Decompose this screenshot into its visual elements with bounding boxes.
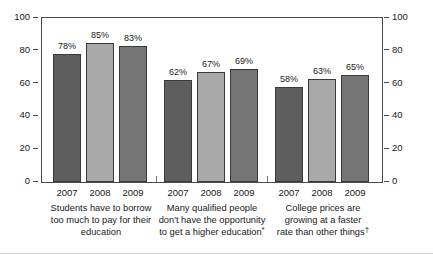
x-axis-year-labels: 200720082009200720082009200720082009 <box>42 186 382 200</box>
bar: 78% <box>53 54 81 182</box>
x-axis-year-label: 2009 <box>335 186 375 199</box>
bar-group: 58%63%65% <box>275 18 371 182</box>
y-tick-right-mark <box>384 148 389 149</box>
group-caption: Many qualified peopledon't have the oppo… <box>151 202 273 239</box>
bar-value-label: 67% <box>202 58 220 70</box>
bar: 65% <box>341 75 369 182</box>
footnote-marker: * <box>262 225 265 234</box>
bar: 85% <box>86 43 114 182</box>
y-tick-right-mark <box>384 49 389 50</box>
group-separator-tick <box>156 176 157 182</box>
y-tick-left-mark <box>33 17 38 18</box>
bar-value-label: 69% <box>235 55 253 67</box>
bar-value-label: 62% <box>169 66 187 78</box>
y-tick-left-mark <box>33 115 38 116</box>
group-caption-line: don't have the opportunity <box>151 214 273 226</box>
y-tick-left-label: 100 <box>14 10 30 24</box>
y-tick-right-label: 80 <box>392 43 403 57</box>
y-tick-right-label: 100 <box>392 10 408 24</box>
y-tick-right-label: 40 <box>392 108 403 122</box>
y-tick-left-mark <box>33 181 38 182</box>
bar-value-label: 78% <box>58 40 76 52</box>
y-tick-right-mark <box>384 181 389 182</box>
y-tick-right-mark <box>384 115 389 116</box>
group-separator-tick <box>267 176 268 182</box>
y-tick-left-mark <box>33 82 38 83</box>
group-caption-line: education <box>42 226 160 238</box>
y-tick-left-label: 20 <box>19 141 30 155</box>
x-axis-year-label: 2009 <box>113 186 153 199</box>
y-tick-left-label: 0 <box>25 174 30 188</box>
group-caption-line: growing at a faster <box>267 214 379 226</box>
group-caption-line: too much to pay for their <box>42 214 160 226</box>
group-caption-line: rate than other things† <box>267 226 379 238</box>
bar: 58% <box>275 87 303 182</box>
bar: 83% <box>119 46 147 182</box>
x-axis-year-label: 2009 <box>224 186 264 199</box>
x-axis-group-captions: Students have to borrowtoo much to pay f… <box>42 202 382 250</box>
bar-value-label: 83% <box>124 32 142 44</box>
bar: 62% <box>164 80 192 182</box>
bar-chart: 020406080100 020406080100 78%85%83%62%67… <box>0 0 433 254</box>
y-tick-right-label: 0 <box>392 174 397 188</box>
y-axis-left: 020406080100 <box>0 17 38 183</box>
bar-value-label: 63% <box>313 65 331 77</box>
y-tick-left-label: 40 <box>19 108 30 122</box>
group-caption-line: Many qualified people <box>151 202 273 214</box>
bar-value-label: 85% <box>91 29 109 41</box>
y-tick-left-mark <box>33 49 38 50</box>
y-tick-left-label: 60 <box>19 76 30 90</box>
footnote-marker: † <box>365 225 369 234</box>
group-caption-line: to get a higher education* <box>151 226 273 238</box>
bar: 67% <box>197 72 225 182</box>
bar-group: 62%67%69% <box>164 18 260 182</box>
bar: 69% <box>230 69 258 182</box>
bar-value-label: 65% <box>346 61 364 73</box>
y-tick-right-label: 20 <box>392 141 403 155</box>
y-axis-right: 020406080100 <box>384 17 422 183</box>
group-caption: Students have to borrowtoo much to pay f… <box>42 202 160 239</box>
y-tick-right-label: 60 <box>392 76 403 90</box>
group-caption: College prices aregrowing at a fasterrat… <box>267 202 379 239</box>
bar-group: 78%85%83% <box>53 18 149 182</box>
bar: 63% <box>308 79 336 182</box>
y-tick-right-mark <box>384 82 389 83</box>
bars-layer: 78%85%83%62%67%69%58%63%65% <box>42 18 382 182</box>
y-tick-left-mark <box>33 148 38 149</box>
group-caption-line: College prices are <box>267 202 379 214</box>
group-caption-line: Students have to borrow <box>42 202 160 214</box>
y-tick-right-mark <box>384 17 389 18</box>
bar-value-label: 58% <box>280 73 298 85</box>
y-tick-left-label: 80 <box>19 43 30 57</box>
